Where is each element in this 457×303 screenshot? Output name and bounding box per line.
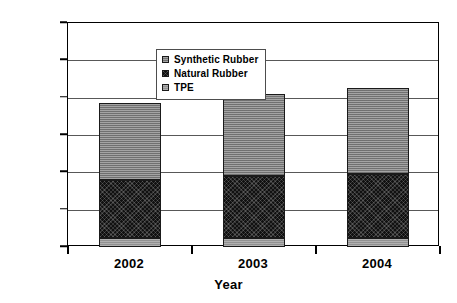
bar-stack <box>347 23 409 247</box>
y-tick-mark <box>60 21 67 23</box>
x-tick-mark <box>439 246 441 254</box>
x-axis-title: Year <box>0 277 457 292</box>
bar-segment <box>223 238 285 247</box>
legend-item: Synthetic Rubber <box>162 53 260 66</box>
bar-segment <box>99 103 161 180</box>
bar-segment <box>347 238 409 247</box>
legend-swatch-synthetic-rubber-icon <box>162 56 169 63</box>
bar-segment <box>99 180 161 238</box>
y-tick-mark <box>60 133 67 135</box>
y-tick-mark <box>60 171 67 173</box>
legend-swatch-natural-rubber-icon <box>162 70 169 77</box>
legend-item: Natural Rubber <box>162 67 260 80</box>
x-tick-label: 2002 <box>74 256 184 271</box>
bar-segment <box>347 88 409 174</box>
x-tick-mark <box>191 246 193 254</box>
y-tick-mark <box>60 59 67 61</box>
y-tick-mark <box>60 96 67 98</box>
bar-segment <box>223 176 285 238</box>
legend: Synthetic Rubber Natural Rubber TPE <box>156 49 266 100</box>
legend-label-tpe: TPE <box>174 82 194 93</box>
x-tick-label: 2004 <box>322 256 432 271</box>
plot-area: Synthetic Rubber Natural Rubber TPE <box>67 22 439 246</box>
bar-stack <box>99 23 161 247</box>
x-tick-mark <box>315 246 317 254</box>
legend-label-synthetic-rubber: Synthetic Rubber <box>174 54 258 65</box>
legend-label-natural-rubber: Natural Rubber <box>174 68 248 79</box>
y-tick-mark <box>60 245 67 247</box>
x-tick-label: 2003 <box>198 256 308 271</box>
bar-segment <box>223 94 285 177</box>
legend-item: TPE <box>162 81 260 94</box>
bar-segment <box>99 238 161 247</box>
y-tick-mark <box>60 208 67 210</box>
bar-segment <box>347 174 409 237</box>
stacked-bar-chart: 05,00010,00015,00020,00025,00030,000 Syn… <box>0 0 457 303</box>
legend-swatch-tpe-icon <box>162 84 169 91</box>
x-tick-mark <box>67 246 69 254</box>
